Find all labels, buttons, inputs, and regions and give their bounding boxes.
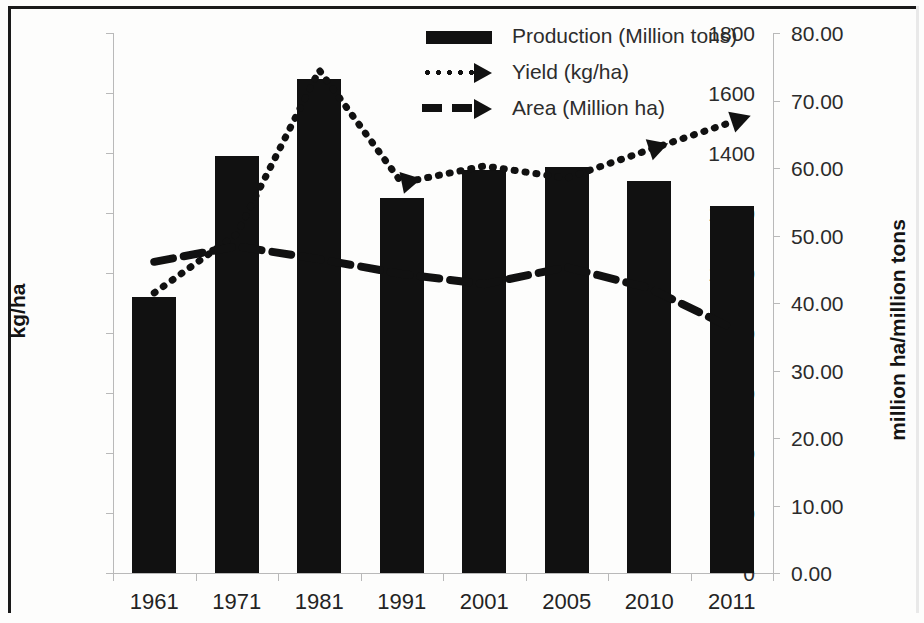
right-tick-mark	[773, 168, 780, 169]
legend-swatch-dashed-arrow-icon	[418, 96, 504, 120]
x-tick-mark	[113, 573, 114, 581]
x-tick-mark	[608, 573, 609, 581]
chart-legend: Production (Million tons) Yield (kg/ha) …	[418, 18, 737, 126]
area-line	[154, 246, 732, 328]
legend-label-yield: Yield (kg/ha)	[512, 60, 629, 84]
x-tick-label: 2011	[708, 589, 755, 615]
x-tick-label: 1961	[130, 589, 179, 615]
left-tick-mark	[106, 93, 113, 94]
left-tick-mark	[106, 453, 113, 454]
right-tick-mark	[773, 506, 780, 507]
x-tick-label: 2010	[625, 589, 674, 615]
right-tick-label: 20.00	[791, 428, 844, 449]
left-tick-mark	[106, 213, 113, 214]
x-tick-label: 1971	[212, 589, 261, 615]
figure-border-right	[916, 6, 919, 613]
left-tick-mark	[106, 273, 113, 274]
x-tick-label: 1991	[377, 589, 426, 615]
left-axis-title: kg/ha	[6, 284, 30, 339]
legend-label-area: Area (Million ha)	[512, 96, 665, 120]
chart-figure: kg/ha million ha/million tons 0200400600…	[0, 0, 924, 623]
right-tick-mark	[773, 101, 780, 102]
right-tick-label: 60.00	[791, 158, 844, 179]
legend-item-yield: Yield (kg/ha)	[418, 54, 737, 90]
x-tick-mark	[196, 573, 197, 581]
right-tick-mark	[773, 438, 780, 439]
right-tick-label: 10.00	[791, 495, 844, 516]
x-tick-mark	[443, 573, 444, 581]
right-tick-label: 30.00	[791, 360, 844, 381]
legend-item-production: Production (Million tons)	[418, 18, 737, 54]
x-tick-mark	[278, 573, 279, 581]
right-tick-label: 50.00	[791, 225, 844, 246]
x-tick-mark	[361, 573, 362, 581]
x-tick-label: 2005	[542, 589, 591, 615]
left-tick-mark	[106, 33, 113, 34]
right-tick-label: 70.00	[791, 90, 844, 111]
left-tick-mark	[106, 333, 113, 334]
left-tick-mark	[106, 393, 113, 394]
right-tick-label: 40.00	[791, 293, 844, 314]
right-tick-label: 0.00	[791, 563, 832, 584]
legend-swatch-dotted-arrow-icon	[418, 60, 504, 84]
x-tick-mark	[691, 573, 692, 581]
x-tick-label: 2001	[460, 589, 509, 615]
yield-arrow-icon	[646, 133, 672, 160]
x-tick-mark	[526, 573, 527, 581]
left-tick-mark	[106, 153, 113, 154]
left-tick-mark	[106, 573, 113, 574]
legend-swatch-bar	[418, 24, 504, 48]
right-axis-title: million ha/million tons	[886, 219, 910, 441]
x-tick-mark	[773, 573, 774, 581]
right-tick-mark	[773, 236, 780, 237]
right-tick-mark	[773, 303, 780, 304]
right-tick-mark	[773, 573, 780, 574]
right-tick-label: 80.00	[791, 23, 844, 44]
x-tick-label: 1981	[295, 589, 344, 615]
right-tick-mark	[773, 371, 780, 372]
legend-item-area: Area (Million ha)	[418, 90, 737, 126]
right-tick-mark	[773, 33, 780, 34]
legend-label-production: Production (Million tons)	[512, 24, 737, 48]
left-tick-mark	[106, 513, 113, 514]
